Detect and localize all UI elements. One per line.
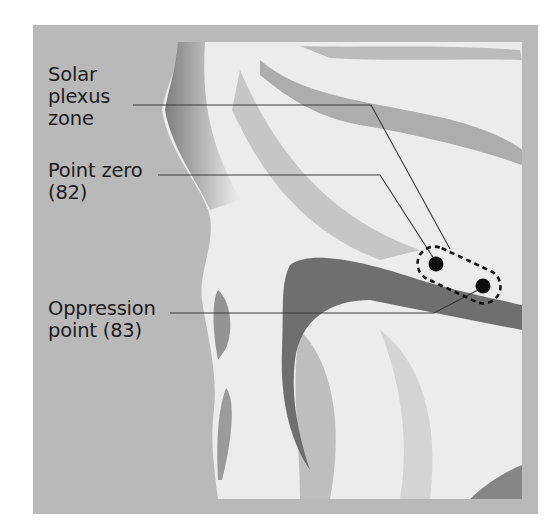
label-point-zero: Point zero (82) (48, 160, 142, 204)
label-oppression-point: Oppression point (83) (48, 298, 156, 342)
point-zero-marker (429, 257, 444, 272)
oppression-point-marker (476, 279, 491, 294)
label-solar-plexus-zone: Solar plexus zone (48, 64, 110, 130)
